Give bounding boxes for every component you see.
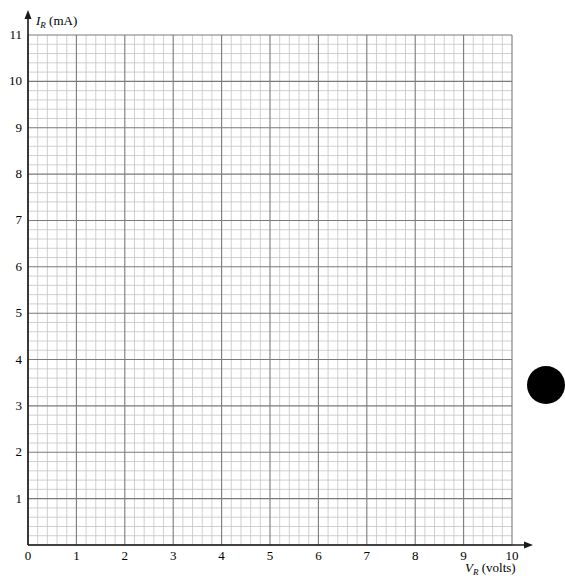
- x-axis-label: VR (volts): [465, 560, 516, 577]
- y-tick-labels: 1234567891011: [9, 27, 23, 506]
- y-tick-label: 11: [9, 27, 22, 42]
- major-grid: [28, 35, 512, 545]
- y-tick-label: 2: [16, 444, 23, 459]
- y-axis-label: IR (mA): [35, 13, 77, 30]
- x-tick-label: 3: [170, 548, 177, 563]
- x-axis-arrow-icon: [524, 542, 533, 549]
- x-tick-label: 4: [218, 548, 225, 563]
- y-tick-label: 6: [16, 259, 23, 274]
- y-tick-label: 4: [16, 352, 23, 367]
- y-tick-label: 8: [16, 166, 23, 181]
- black-page-marker: [527, 366, 565, 404]
- x-tick-label: 2: [122, 548, 129, 563]
- y-tick-label: 10: [9, 73, 22, 88]
- x-tick-label: 7: [364, 548, 371, 563]
- x-tick-label: 6: [315, 548, 322, 563]
- y-axis-arrow-icon: [25, 10, 32, 19]
- x-tick-label: 0: [25, 548, 32, 563]
- y-tick-label: 7: [16, 212, 23, 227]
- x-tick-label: 8: [412, 548, 419, 563]
- x-tick-label: 5: [267, 548, 274, 563]
- y-tick-label: 1: [16, 491, 23, 506]
- x-tick-labels: 012345678910: [25, 548, 519, 563]
- y-tick-label: 9: [16, 120, 23, 135]
- y-tick-label: 3: [16, 398, 23, 413]
- x-tick-label: 1: [73, 548, 80, 563]
- y-tick-label: 5: [16, 305, 23, 320]
